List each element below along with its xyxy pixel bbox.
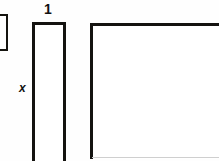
narrow-tall-rectangle-shape (32, 22, 66, 161)
large-rectangle-shape (90, 23, 219, 159)
figure-canvas: 1 x (0, 0, 219, 161)
width-dimension-label: 1 (44, 2, 52, 16)
partial-rectangle-left-shape (0, 14, 8, 51)
large-rectangle-bottom-edge (92, 157, 219, 158)
height-dimension-label: x (19, 82, 26, 94)
